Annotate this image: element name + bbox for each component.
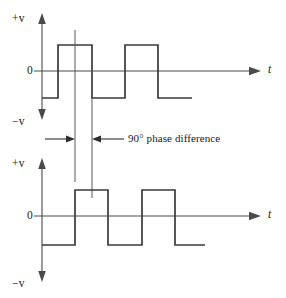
bottom-vertical-axis	[38, 158, 46, 282]
top-axis-label-v-plus: +v	[12, 13, 25, 25]
phase-dimension-group	[45, 30, 124, 198]
top-axis-label-v-minus: −v	[12, 116, 25, 128]
bottom-plot	[34, 158, 261, 282]
bottom-axis-label-time: t	[268, 209, 271, 221]
top-axis-label-time: t	[268, 64, 271, 76]
waveform-svg	[0, 0, 286, 298]
top-plot	[34, 13, 261, 120]
top-axis-label-zero: 0	[27, 65, 33, 77]
bottom-axis-label-zero: 0	[27, 210, 33, 222]
bottom-axis-label-v-plus: +v	[12, 158, 25, 170]
bottom-waveform-path	[42, 190, 205, 245]
bottom-time-axis	[34, 212, 261, 220]
waveform-figure: +v 0 −v t 90° phase difference +v 0 −v t	[0, 0, 286, 298]
phase-difference-label: 90° phase difference	[128, 133, 220, 144]
top-vertical-axis	[38, 13, 46, 120]
top-time-axis	[34, 67, 261, 75]
bottom-axis-label-v-minus: −v	[12, 278, 25, 290]
